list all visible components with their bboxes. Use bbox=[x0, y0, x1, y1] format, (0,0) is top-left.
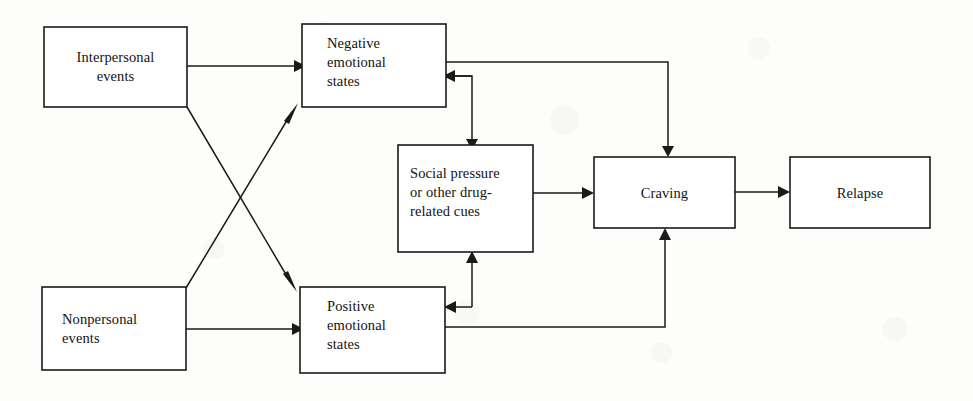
node-nonpersonal-events[interactable]: Nonpersonal events bbox=[42, 287, 186, 370]
node-label-craving: Craving bbox=[641, 185, 688, 201]
node-label-social-pressure-line2: or other drug- bbox=[410, 184, 492, 200]
node-social-pressure[interactable]: Social pressure or other drug- related c… bbox=[398, 145, 533, 252]
node-label-positive-emotional-states-line3: states bbox=[327, 336, 360, 352]
node-label-interpersonal-events-line1: Interpersonal bbox=[77, 49, 155, 65]
edge-craving-to-relapse bbox=[735, 186, 790, 198]
node-positive-emotional-states[interactable]: Positive emotional states bbox=[300, 287, 445, 373]
node-label-negative-emotional-states-line1: Negative bbox=[327, 35, 380, 51]
node-label-social-pressure-line1: Social pressure bbox=[410, 165, 500, 181]
edge-social-pressure-to-positive bbox=[444, 301, 472, 313]
edge-interpersonal-to-positive bbox=[187, 107, 297, 292]
node-layer: Interpersonal events Nonpersonal events … bbox=[42, 24, 930, 373]
node-label-relapse: Relapse bbox=[837, 185, 884, 201]
node-label-negative-emotional-states-line2: emotional bbox=[327, 54, 386, 70]
flow-diagram-canvas: Interpersonal events Nonpersonal events … bbox=[0, 0, 973, 401]
node-craving[interactable]: Craving bbox=[594, 157, 735, 228]
node-label-nonpersonal-events-line2: events bbox=[62, 330, 100, 346]
edge-nonpersonal-to-positive bbox=[186, 323, 304, 335]
flow-diagram: Interpersonal events Nonpersonal events … bbox=[0, 0, 973, 401]
node-negative-emotional-states[interactable]: Negative emotional states bbox=[302, 24, 446, 107]
node-label-positive-emotional-states-line1: Positive bbox=[327, 298, 375, 314]
edge-negative-to-social-pressure bbox=[446, 76, 478, 150]
edge-social-pressure-to-negative bbox=[443, 70, 472, 82]
edge-interpersonal-to-negative bbox=[187, 60, 306, 72]
node-label-nonpersonal-events-line1: Nonpersonal bbox=[62, 311, 137, 327]
node-label-social-pressure-line3: related cues bbox=[410, 203, 480, 219]
node-box-interpersonal-events[interactable] bbox=[44, 27, 187, 107]
node-label-interpersonal-events-line2: events bbox=[97, 68, 135, 84]
edge-negative-to-craving bbox=[446, 62, 674, 157]
edge-social-pressure-to-craving bbox=[533, 187, 594, 199]
node-relapse[interactable]: Relapse bbox=[790, 157, 930, 228]
node-label-negative-emotional-states-line3: states bbox=[327, 73, 360, 89]
node-interpersonal-events[interactable]: Interpersonal events bbox=[44, 27, 187, 107]
node-label-positive-emotional-states-line2: emotional bbox=[327, 317, 386, 333]
node-box-nonpersonal-events[interactable] bbox=[42, 287, 186, 370]
edge-nonpersonal-to-negative bbox=[186, 103, 298, 288]
edge-positive-to-social-pressure bbox=[466, 251, 478, 307]
